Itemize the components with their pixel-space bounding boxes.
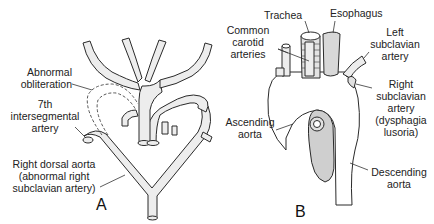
left-subclavian bbox=[343, 56, 366, 78]
label-line: lusoria) bbox=[370, 126, 432, 138]
label-esophagus: Esophagus bbox=[330, 7, 383, 19]
label-common-carotid-arteries: Common carotid arteries bbox=[223, 24, 273, 60]
label-line: Abnormal bbox=[4, 66, 72, 78]
label-line: (abnormal right bbox=[8, 170, 100, 182]
stub-mid bbox=[162, 122, 168, 134]
panel-letter-b: B bbox=[295, 203, 306, 221]
label-line: arteries bbox=[223, 48, 273, 60]
central-branch-left bbox=[122, 38, 142, 82]
right-carotid-opening bbox=[282, 44, 290, 48]
label-line: artery bbox=[8, 122, 82, 134]
label-line: carotid bbox=[223, 36, 273, 48]
cut-vessel-lumen bbox=[314, 121, 321, 128]
label-line: Ascending bbox=[222, 116, 278, 128]
label-abnormal-obliteration: Abnormal obliteration bbox=[4, 66, 72, 90]
panel-letter-a: A bbox=[96, 196, 107, 214]
label-line: obliteration bbox=[4, 78, 72, 90]
label-line: Common bbox=[223, 24, 273, 36]
label-line: artery bbox=[364, 50, 426, 62]
label-line: intersegmental bbox=[8, 110, 82, 122]
label-ascending-aorta: Ascending aorta bbox=[222, 116, 278, 140]
panel-b-vessels bbox=[268, 32, 366, 205]
right-subclavian-stub bbox=[276, 68, 284, 76]
label-left-subclavian-artery: Left subclavian artery bbox=[364, 26, 426, 62]
label-line: aorta bbox=[366, 178, 432, 190]
label-line: artery bbox=[370, 102, 432, 114]
obliterated-segment bbox=[87, 84, 138, 135]
panel-a-vessels bbox=[83, 38, 212, 220]
label-trachea: Trachea bbox=[264, 9, 302, 21]
label-line: (dysphagia bbox=[370, 114, 432, 126]
label-right-subclavian-artery: Right subclavian artery (dysphagia lusor… bbox=[370, 78, 432, 138]
left-common-carotid bbox=[305, 42, 314, 76]
label-line: 7th bbox=[8, 98, 82, 110]
label-line: subclavian bbox=[370, 90, 432, 102]
central-branch-right bbox=[145, 40, 166, 82]
label-line: Right bbox=[370, 78, 432, 90]
label-right-dorsal-aorta: Right dorsal aorta (abnormal right subcl… bbox=[8, 158, 100, 194]
label-line: aorta bbox=[222, 128, 278, 140]
label-line: subclavian artery) bbox=[8, 182, 100, 194]
stub-mid2 bbox=[172, 126, 177, 135]
esophagus bbox=[323, 32, 340, 76]
left-carotid-branch bbox=[160, 43, 212, 88]
label-descending-aorta: Descending aorta bbox=[366, 166, 432, 190]
trachea-opening bbox=[301, 32, 320, 40]
trunk-opening-2 bbox=[147, 141, 159, 146]
label-line: subclavian bbox=[364, 38, 426, 50]
label-line: Right dorsal aorta bbox=[8, 158, 100, 170]
label-line: Descending bbox=[366, 166, 432, 178]
bottom-opening bbox=[148, 216, 158, 220]
stub-left bbox=[122, 110, 138, 126]
label-7th-intersegmental-artery: 7th intersegmental artery bbox=[8, 98, 82, 134]
left-stub-opening bbox=[83, 137, 93, 143]
label-line: Left bbox=[364, 26, 426, 38]
